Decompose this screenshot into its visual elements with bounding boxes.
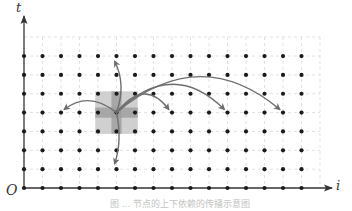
grid-node xyxy=(22,129,26,133)
grid-node xyxy=(133,111,137,115)
grid-node xyxy=(40,167,44,171)
grid-node xyxy=(133,73,137,77)
grid-node xyxy=(244,186,248,190)
grid-node xyxy=(188,54,192,58)
grid-node xyxy=(151,148,155,152)
grid-node xyxy=(133,54,137,58)
grid-node xyxy=(207,111,211,115)
axes xyxy=(24,16,332,188)
grid-node xyxy=(96,92,100,96)
grid-node xyxy=(188,148,192,152)
grid-node xyxy=(40,148,44,152)
grid-node xyxy=(22,167,26,171)
grid-node xyxy=(40,186,44,190)
grid-node xyxy=(207,167,211,171)
grid-node xyxy=(22,92,26,96)
grid-node xyxy=(244,167,248,171)
grid-node xyxy=(77,54,81,58)
grid-node xyxy=(262,111,266,115)
y-axis-label: t xyxy=(16,0,21,15)
grid-node xyxy=(244,54,248,58)
grid-node xyxy=(170,148,174,152)
grid-node xyxy=(225,54,229,58)
dependency-diagram xyxy=(0,0,352,211)
grid-node xyxy=(96,54,100,58)
grid-node xyxy=(77,73,81,77)
grid-node xyxy=(262,54,266,58)
grid-node xyxy=(207,54,211,58)
grid-node xyxy=(244,148,248,152)
grid-node xyxy=(59,186,63,190)
grid-node xyxy=(96,111,100,115)
grid-node xyxy=(151,73,155,77)
grid-node xyxy=(281,54,285,58)
grid-node xyxy=(299,111,303,115)
grid-node xyxy=(225,111,229,115)
grid-node xyxy=(114,92,118,96)
grid-node xyxy=(188,167,192,171)
grid-node xyxy=(262,129,266,133)
grid-node xyxy=(188,111,192,115)
grid-node xyxy=(188,129,192,133)
grid-node xyxy=(40,111,44,115)
grid-node xyxy=(188,92,192,96)
grid-node xyxy=(77,92,81,96)
grid-node xyxy=(262,73,266,77)
grid-node xyxy=(40,129,44,133)
grid-node xyxy=(207,148,211,152)
grid-node xyxy=(114,54,118,58)
grid-node xyxy=(59,129,63,133)
grid-node xyxy=(225,167,229,171)
grid-node xyxy=(59,167,63,171)
grid-node xyxy=(114,167,118,171)
grid-node xyxy=(262,92,266,96)
grid-node xyxy=(170,54,174,58)
grid-node xyxy=(59,92,63,96)
grid-node xyxy=(281,148,285,152)
grid-node xyxy=(299,129,303,133)
grid-node xyxy=(22,186,26,190)
grid-node xyxy=(170,111,174,115)
grid-node xyxy=(281,111,285,115)
grid-node xyxy=(244,129,248,133)
grid-nodes xyxy=(22,54,304,190)
grid-node xyxy=(77,148,81,152)
x-axis-label: i xyxy=(336,178,340,193)
grid-node xyxy=(22,148,26,152)
grid-node xyxy=(59,54,63,58)
arrow-right-far xyxy=(117,77,281,113)
grid-node xyxy=(299,167,303,171)
grid-node xyxy=(96,148,100,152)
grid-node xyxy=(77,129,81,133)
grid-node xyxy=(225,148,229,152)
grid-node xyxy=(281,167,285,171)
origin-label: O xyxy=(6,182,17,198)
grid-node xyxy=(225,129,229,133)
grid-node xyxy=(170,92,174,96)
grid-node xyxy=(299,92,303,96)
grid-node xyxy=(151,111,155,115)
grid-node xyxy=(299,148,303,152)
grid-node xyxy=(170,73,174,77)
grid-node xyxy=(225,186,229,190)
grid-node xyxy=(151,54,155,58)
grid-node xyxy=(207,186,211,190)
grid-node xyxy=(22,111,26,115)
grid-node xyxy=(114,186,118,190)
grid-node xyxy=(40,73,44,77)
grid-node xyxy=(133,129,137,133)
grid-node xyxy=(22,73,26,77)
grid-node xyxy=(151,186,155,190)
grid-node xyxy=(96,73,100,77)
grid-node xyxy=(262,167,266,171)
grid-node xyxy=(133,186,137,190)
grid-node xyxy=(262,148,266,152)
grid-node xyxy=(244,73,248,77)
grid-node xyxy=(40,54,44,58)
grid-node xyxy=(151,129,155,133)
grid-node xyxy=(151,167,155,171)
grid-node xyxy=(59,73,63,77)
grid-node xyxy=(96,129,100,133)
grid-node xyxy=(59,148,63,152)
grid-node xyxy=(133,167,137,171)
